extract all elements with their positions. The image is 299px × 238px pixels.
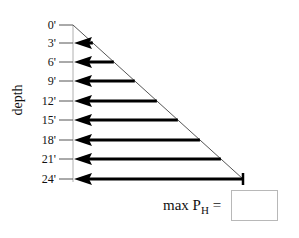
depth-label: 15' — [16, 114, 56, 126]
answer-input-box[interactable] — [231, 190, 278, 221]
pressure-arrow — [74, 95, 157, 107]
pressure-arrow — [74, 75, 135, 87]
axis-title-depth: depth — [10, 84, 26, 115]
answer-prefix: max P — [163, 197, 201, 213]
depth-label: 18' — [16, 134, 56, 146]
max-ph-label: max PH = — [163, 197, 221, 216]
depth-label: 0' — [16, 19, 56, 31]
answer-subscript: H — [201, 204, 209, 216]
pressure-arrows — [74, 37, 243, 185]
pressure-arrow — [74, 56, 114, 68]
pressure-arrow — [74, 134, 200, 146]
pressure-arrow — [74, 37, 93, 49]
depth-ticks — [59, 25, 73, 179]
depth-label: 6' — [16, 56, 56, 68]
pressure-arrow — [74, 173, 243, 185]
answer-suffix: = — [209, 197, 221, 213]
depth-label: 21' — [16, 153, 56, 165]
depth-label: 24' — [16, 173, 56, 185]
depth-label: 3' — [16, 37, 56, 49]
pressure-arrow — [74, 114, 178, 126]
pressure-arrow — [74, 153, 221, 165]
